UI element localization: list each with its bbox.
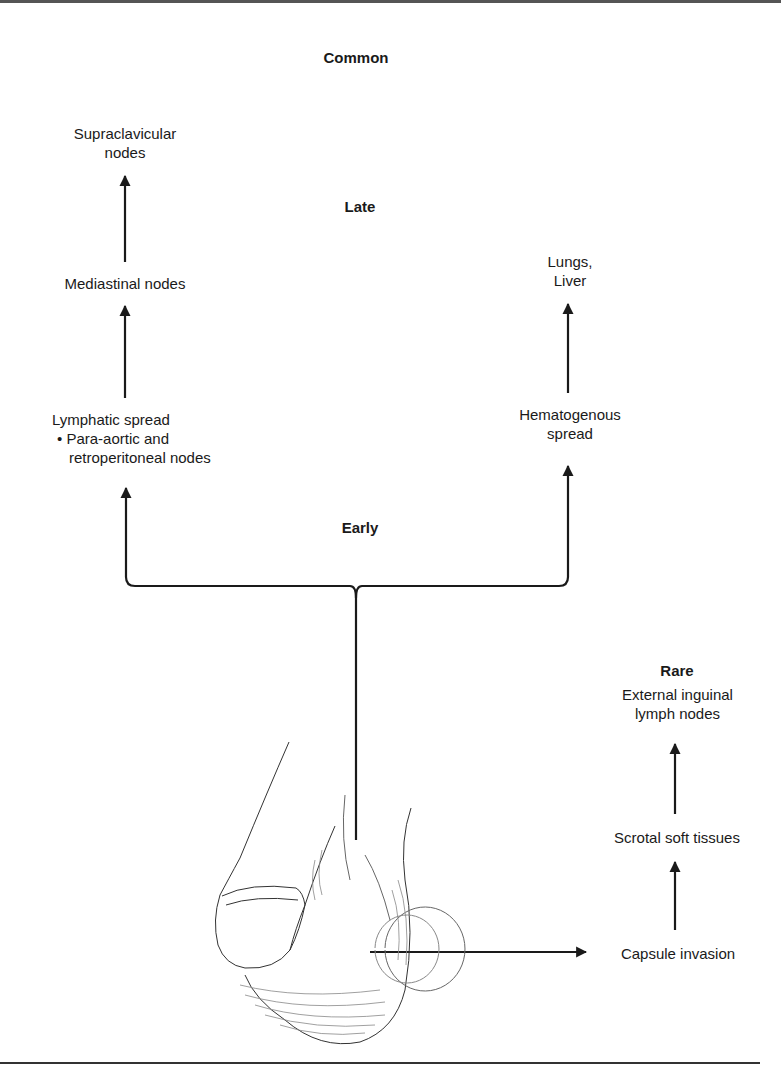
- genitalia-illustration-icon: [215, 742, 465, 1044]
- early-spread-bracket: [126, 488, 356, 840]
- early-spread-bracket-right: [356, 466, 568, 598]
- diagram-arrows: [0, 0, 781, 1082]
